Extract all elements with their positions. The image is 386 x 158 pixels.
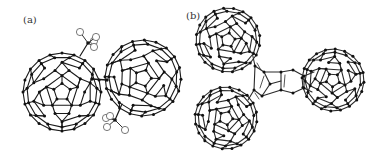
- atom: [355, 94, 358, 97]
- atom: [255, 54, 258, 57]
- atom: [157, 77, 160, 80]
- atom: [338, 62, 341, 65]
- atom: [121, 69, 124, 72]
- atom: [27, 101, 30, 104]
- atom: [69, 88, 72, 91]
- atom: [249, 62, 252, 65]
- bond: [179, 79, 181, 91]
- atom: [43, 67, 46, 70]
- atom: [100, 91, 103, 94]
- atom: [30, 73, 33, 76]
- atom: [198, 43, 201, 46]
- atom: [251, 126, 254, 129]
- atom: [140, 114, 143, 117]
- atom: [211, 145, 214, 148]
- atom: [90, 77, 93, 80]
- atom: [87, 114, 90, 117]
- bond: [157, 61, 165, 72]
- atom: [354, 73, 357, 76]
- bond: [109, 63, 112, 77]
- atom: [202, 54, 205, 57]
- bond: [80, 43, 88, 56]
- bond: [130, 68, 131, 87]
- atom: [202, 95, 205, 98]
- bond: [235, 126, 243, 134]
- atom: [168, 98, 171, 101]
- atom: [251, 35, 254, 38]
- atom: [344, 83, 347, 86]
- atom: [241, 124, 244, 127]
- atom: [208, 109, 211, 112]
- atom: [165, 60, 168, 63]
- atom: [194, 113, 197, 116]
- atom: [107, 75, 110, 78]
- atom: [316, 88, 319, 91]
- atom: [198, 23, 201, 26]
- atom: [92, 113, 95, 116]
- atom: [104, 75, 107, 78]
- atom: [229, 25, 232, 28]
- atom: [331, 85, 334, 88]
- bond: [198, 115, 199, 127]
- atom: [242, 133, 245, 136]
- atom: [68, 56, 71, 59]
- atom: [263, 71, 266, 74]
- atom: [203, 61, 206, 64]
- atom: [280, 71, 283, 74]
- bond: [164, 72, 172, 79]
- bond: [122, 41, 133, 46]
- atom: [232, 7, 235, 10]
- bond: [50, 53, 62, 55]
- atom: [261, 95, 264, 98]
- bond: [256, 46, 259, 55]
- atom: [230, 147, 233, 150]
- atom: [303, 87, 306, 90]
- atom: [94, 101, 97, 104]
- atom: [178, 66, 181, 69]
- atom: [205, 27, 208, 30]
- bond: [129, 95, 142, 100]
- atom: [48, 128, 51, 131]
- bond: [208, 110, 209, 121]
- atom: [32, 100, 35, 103]
- atom: [61, 52, 64, 55]
- atom: [61, 61, 64, 64]
- atom: [29, 113, 32, 116]
- atom: [320, 107, 323, 110]
- atom: [229, 140, 232, 143]
- atom: [248, 119, 251, 122]
- atom: [328, 73, 331, 76]
- atom: [359, 72, 362, 75]
- atom: [253, 130, 256, 133]
- atom: [330, 102, 333, 105]
- atom: [319, 82, 322, 85]
- atom: [351, 55, 354, 58]
- atom: [163, 70, 166, 73]
- atom: [212, 10, 215, 13]
- atom: [252, 114, 255, 117]
- atom: [244, 61, 247, 64]
- atom: [242, 10, 245, 13]
- atom: [204, 20, 207, 23]
- bond: [214, 8, 224, 11]
- atom: [81, 62, 84, 65]
- atom: [55, 97, 58, 100]
- bond: [155, 86, 163, 97]
- atom: [105, 78, 108, 81]
- bond: [304, 72, 314, 76]
- atom: [203, 139, 206, 142]
- bond: [308, 92, 315, 101]
- atom: [78, 114, 81, 117]
- atom: [292, 92, 295, 95]
- atom: [196, 103, 199, 106]
- atom: [215, 32, 218, 35]
- atom: [362, 81, 365, 84]
- atom: [213, 123, 216, 126]
- bond: [69, 70, 80, 78]
- bond: [318, 90, 327, 97]
- atom: [113, 75, 116, 78]
- atom: [219, 120, 222, 123]
- atom: [83, 59, 86, 62]
- atom: [216, 17, 219, 20]
- atom: [222, 7, 225, 10]
